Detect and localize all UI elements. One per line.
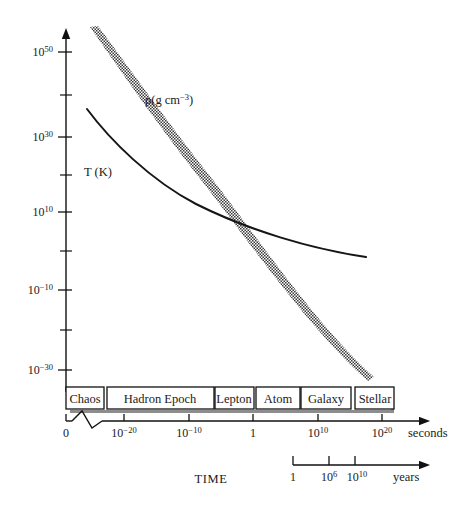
zigzag-break-icon (72, 411, 102, 428)
x-label-years-1e10: 1010 (347, 469, 368, 484)
y-tick-label-1e-30: 10−30 (28, 362, 53, 377)
x-label-years-1: 1 (290, 470, 296, 484)
x-axis-seconds-group: 0 10−20 10−10 1 1010 1020 seconds (63, 411, 448, 440)
epoch-bar: Chaos Hadron Epoch Lepton Atom Galaxy St… (66, 387, 394, 413)
x-label-seconds-1: 1 (250, 426, 256, 440)
x-label-seconds-1e20: 1020 (372, 425, 393, 440)
y-tick-label-1e-10: 10−10 (28, 282, 53, 297)
epoch-label-atom: Atom (264, 392, 293, 406)
epoch-label-stellar: Stellar (359, 392, 392, 406)
epoch-label-chaos: Chaos (69, 392, 100, 406)
density-series-label: ρ(g cm−3) (145, 92, 193, 107)
y-tick-label-1e30: 1030 (33, 129, 54, 144)
epoch-label-lepton: Lepton (216, 392, 252, 406)
x-axis-seconds-unit: seconds (408, 426, 448, 440)
temperature-curve (87, 109, 366, 257)
chart-time-title: TIME (195, 472, 228, 486)
x-axis-years-group: 1 106 1010 years (290, 456, 420, 484)
x-label-years-1e6: 106 (321, 469, 337, 484)
cosmic-time-chart: 1050 1030 1010 10−10 10−30 ρ (0, 0, 462, 512)
x-label-seconds-1e-20: 10−20 (111, 425, 136, 440)
x-label-seconds-1e-10: 10−10 (176, 425, 201, 440)
epoch-label-galaxy: Galaxy (308, 392, 345, 406)
temperature-series-label: T (K) (84, 165, 112, 179)
epoch-bar-shadow-bottom (70, 410, 394, 413)
y-axis-group: 1050 1030 1010 10−10 10−30 (28, 38, 72, 392)
x-label-seconds-1e10: 1010 (308, 425, 329, 440)
density-curve-band (90, 26, 374, 381)
epoch-label-hadron-epoch: Hadron Epoch (124, 392, 197, 406)
density-band-path (90, 26, 374, 381)
x-axis-years-unit: years (393, 470, 420, 484)
x-label-seconds-0: 0 (63, 426, 69, 440)
figure-container: 1050 1030 1010 10−10 10−30 ρ (0, 0, 462, 512)
y-tick-label-1e10: 1010 (33, 204, 54, 219)
temperature-curve-path (87, 109, 366, 257)
y-tick-label-1e50: 1050 (33, 44, 54, 59)
